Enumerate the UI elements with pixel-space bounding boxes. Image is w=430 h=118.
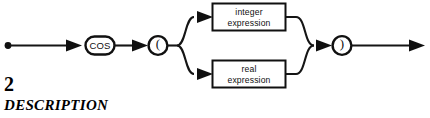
- syntax-diagram: COS ( integer expression real expression…: [0, 0, 430, 118]
- track-top-branch-to-merge: [286, 17, 315, 46]
- end-arrowhead-icon: [409, 40, 425, 52]
- track-bottom-branch-to-merge: [286, 46, 315, 75]
- arrowhead-into-keyword-icon: [66, 40, 82, 52]
- arrowhead-into-top-branch-icon: [197, 11, 213, 23]
- top-branch-label-line2: expression: [227, 18, 270, 28]
- arrowhead-into-open-paren-icon: [132, 40, 148, 52]
- arrowhead-into-close-paren-icon: [316, 40, 332, 52]
- top-branch-label-line1: integer: [235, 7, 262, 17]
- track-split-to-bottom-branch: [177, 46, 194, 75]
- close-paren-terminal-label: ): [340, 36, 344, 51]
- arrowhead-into-bottom-branch-icon: [197, 68, 213, 80]
- section-heading: DESCRIPTION: [4, 97, 108, 113]
- open-paren-terminal-label: (: [156, 36, 160, 51]
- bottom-branch-label-line2: expression: [227, 75, 270, 85]
- bottom-branch-label-line1: real: [242, 64, 257, 74]
- keyword-terminal-label: COS: [89, 40, 110, 51]
- track-split-to-top-branch: [177, 17, 194, 46]
- section-number: 2: [4, 74, 14, 94]
